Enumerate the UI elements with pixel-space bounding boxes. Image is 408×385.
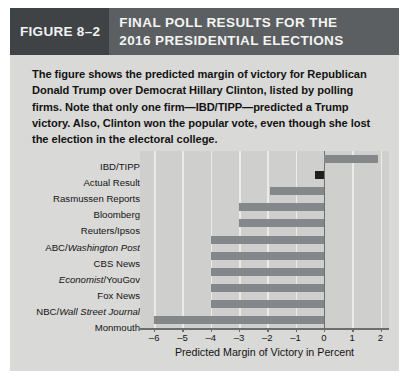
gridline (352, 151, 354, 328)
x-axis-tick-label: –4 (198, 333, 224, 343)
bar (154, 316, 324, 324)
bar (211, 300, 324, 308)
gridline (381, 151, 383, 328)
category-label: Economist/YouGov (22, 275, 140, 285)
x-axis-tick-label: –1 (283, 333, 309, 343)
bar (239, 203, 324, 211)
figure-title: FINAL POLL RESULTS FOR THE 2016 PRESIDEN… (109, 8, 399, 55)
x-axis-tick-label: –3 (226, 333, 252, 343)
bar (211, 236, 324, 244)
bar-chart: IBD/TIPPActual ResultRasmussen ReportsBl… (10, 151, 399, 367)
category-label: Actual Result (22, 178, 140, 188)
category-label: IBD/TIPP (22, 162, 140, 172)
figure-container: FIGURE 8–2 FINAL POLL RESULTS FOR THE 20… (0, 0, 408, 385)
bar (239, 219, 324, 227)
x-axis-tick-label: –5 (169, 333, 195, 343)
x-axis-tick-label: 1 (339, 333, 365, 343)
bar (211, 252, 324, 260)
figure-title-line-2: 2016 PRESIDENTIAL ELECTIONS (119, 32, 399, 49)
bar (270, 187, 324, 195)
figure-caption: The figure shows the predicted margin of… (32, 66, 378, 147)
x-axis-tick-label: 0 (311, 333, 337, 343)
category-label: NBC/Wall Street Journal (22, 307, 140, 317)
figure-title-line-1: FINAL POLL RESULTS FOR THE (119, 14, 399, 31)
plot-area (140, 151, 389, 328)
category-label: Monmouth (22, 323, 140, 333)
bar (315, 171, 323, 179)
category-axis-labels: IBD/TIPPActual ResultRasmussen ReportsBl… (22, 155, 140, 332)
x-axis-title: Predicted Margin of Victory in Percent (140, 347, 389, 358)
figure-body: FIGURE 8–2 FINAL POLL RESULTS FOR THE 20… (10, 8, 399, 371)
category-label: Rasmussen Reports (22, 194, 140, 204)
bar (211, 268, 324, 276)
x-axis-tick-label: –2 (254, 333, 280, 343)
x-axis-tick-label: 2 (368, 333, 394, 343)
category-label: CBS News (22, 259, 140, 269)
figure-number-badge: FIGURE 8–2 (10, 8, 109, 55)
category-label: Bloomberg (22, 210, 140, 220)
gridline (182, 151, 184, 328)
category-label: Fox News (22, 291, 140, 301)
x-axis-tick-label: –6 (141, 333, 167, 343)
figure-title-bar: FIGURE 8–2 FINAL POLL RESULTS FOR THE 20… (10, 8, 399, 55)
zero-line (324, 151, 326, 328)
category-label: ABC/Washington Post (22, 243, 140, 253)
bar (324, 155, 378, 163)
bar (211, 284, 324, 292)
gridline (154, 151, 156, 328)
category-label: Reuters/Ipsos (22, 226, 140, 236)
